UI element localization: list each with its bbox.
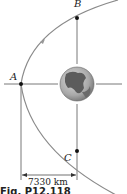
orbit-diagram [0, 0, 127, 194]
dimension-arrow-right-icon [71, 173, 76, 177]
point-b-label: B [74, 0, 81, 9]
dimension-arrow-left-icon [22, 173, 27, 177]
point-c-marker [75, 149, 79, 153]
point-a-label: A [10, 71, 17, 82]
earth-icon [60, 67, 94, 101]
figure-caption: Fig. P12.118 [0, 186, 71, 194]
point-c-label: C [64, 152, 72, 163]
point-a-marker [19, 82, 23, 86]
point-b-marker [75, 16, 79, 20]
